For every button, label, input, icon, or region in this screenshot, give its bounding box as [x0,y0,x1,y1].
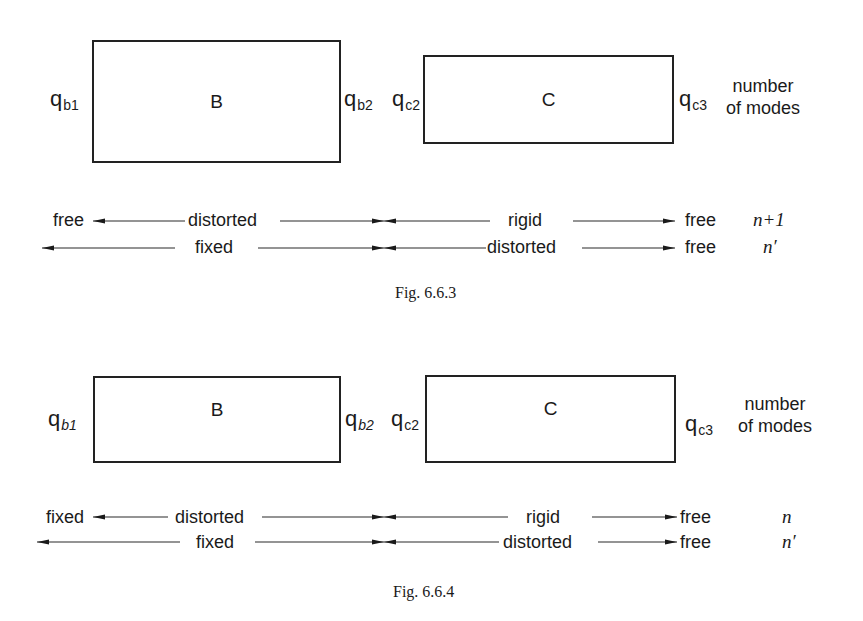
arrow-lines [0,0,863,621]
